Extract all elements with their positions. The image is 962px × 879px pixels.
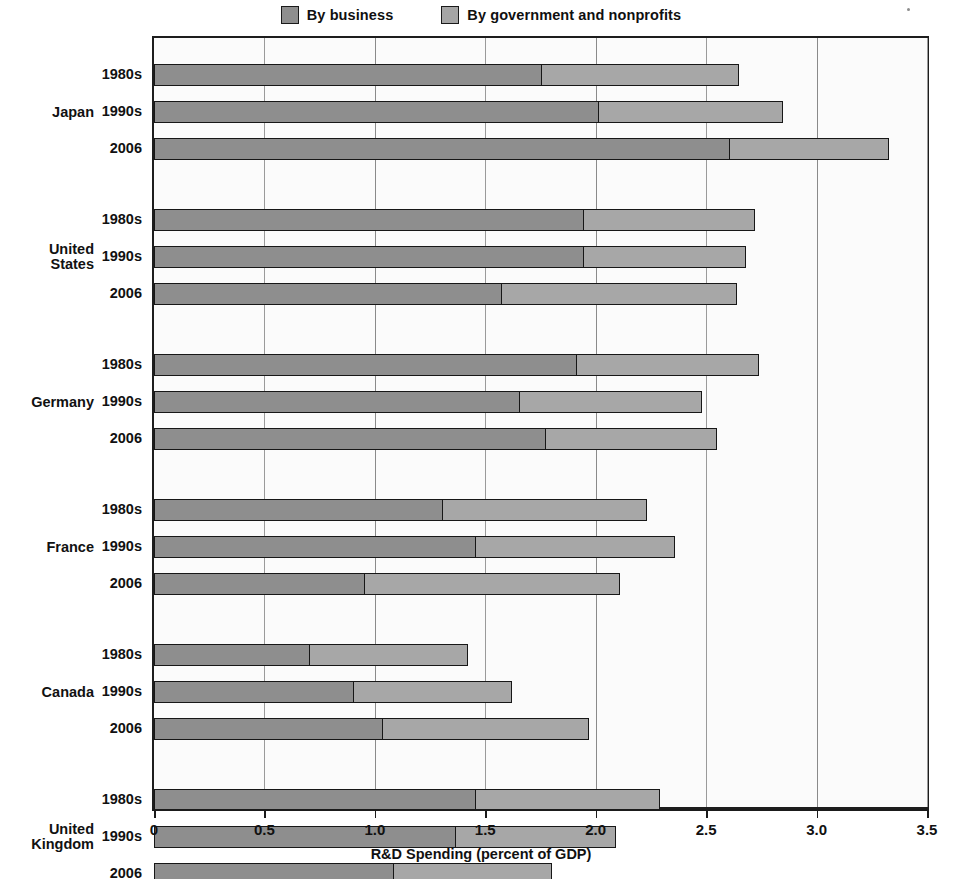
x-axis: 00.51.01.52.02.53.03.5 [152, 809, 929, 811]
legend-swatch-government-icon [441, 6, 459, 24]
x-tick-label: 3.5 [917, 821, 938, 838]
category-axis-labels: 1980s1990s2006Japan1980s1990s2006UnitedS… [0, 36, 152, 809]
bar-segment-government [382, 718, 589, 740]
legend-label-government: By government and nonprofits [467, 7, 681, 23]
period-label: 2006 [110, 576, 142, 591]
period-label: 2006 [110, 286, 142, 301]
bar-row [154, 209, 755, 231]
bar-row [154, 391, 702, 413]
bar-segment-government [353, 681, 512, 703]
bar-segment-government [583, 246, 746, 268]
bar-segment-business [154, 789, 476, 811]
x-tick [596, 809, 598, 818]
x-tick-label: 2.0 [585, 821, 606, 838]
x-tick [485, 809, 487, 818]
x-tick [817, 809, 819, 818]
bar-row [154, 246, 746, 268]
chart-legend: By business By government and nonprofits [0, 2, 962, 28]
bar-segment-government [475, 789, 660, 811]
bar-segment-business [154, 826, 457, 848]
x-tick [154, 809, 156, 818]
period-label: 1990s [102, 249, 142, 264]
period-label: 2006 [110, 721, 142, 736]
bar-row [154, 718, 589, 740]
bar-segment-government [364, 573, 620, 595]
bar-row [154, 499, 647, 521]
bar-segment-business [154, 499, 443, 521]
bar-segment-business [154, 283, 503, 305]
bar-segment-government [545, 428, 717, 450]
bar-segment-business [154, 681, 355, 703]
bar-row [154, 283, 737, 305]
country-label: UnitedStates [49, 242, 94, 272]
bar-row [154, 138, 889, 160]
country-label: Germany [31, 395, 94, 410]
legend-label-business: By business [307, 7, 394, 23]
bar-segment-government [475, 536, 675, 558]
bar-segment-government [541, 64, 739, 86]
country-label: Canada [42, 685, 94, 700]
x-tick [927, 809, 929, 818]
x-tick-label: 1.0 [364, 821, 385, 838]
bar-segment-government [583, 209, 755, 231]
bar-row [154, 573, 620, 595]
period-label: 1980s [102, 357, 142, 372]
period-label: 1980s [102, 212, 142, 227]
bar-segment-business [154, 536, 476, 558]
bar-segment-government [309, 644, 468, 666]
bar-segment-business [154, 428, 547, 450]
chart-canvas: By business By government and nonprofits… [0, 0, 962, 879]
period-label: 1980s [102, 67, 142, 82]
bar-segment-business [154, 246, 585, 268]
bar-segment-government [501, 283, 737, 305]
bar-row [154, 644, 468, 666]
x-axis-title: R&D Spending (percent of GDP) [0, 846, 962, 862]
period-label: 1980s [102, 792, 142, 807]
bar-segment-business [154, 209, 585, 231]
period-label: 1990s [102, 684, 142, 699]
page-artifact-dot [907, 8, 910, 11]
period-label: 2006 [110, 866, 142, 879]
period-label: 1980s [102, 502, 142, 517]
legend-item-business: By business [281, 6, 394, 24]
period-label: 1990s [102, 394, 142, 409]
bar-segment-government [393, 863, 552, 879]
period-label: 1990s [102, 104, 142, 119]
bar-segment-business [154, 644, 311, 666]
bar-segment-government [729, 138, 890, 160]
bar-row [154, 536, 675, 558]
x-tick-label: 3.0 [806, 821, 827, 838]
legend-item-government: By government and nonprofits [441, 6, 681, 24]
bar-segment-business [154, 718, 384, 740]
x-tick [706, 809, 708, 818]
bar-segment-business [154, 391, 521, 413]
x-tick [264, 809, 266, 818]
bar-row [154, 428, 717, 450]
bar-row [154, 863, 552, 879]
period-label: 1990s [102, 539, 142, 554]
gridline-3.5 [927, 38, 928, 807]
bar-row [154, 354, 759, 376]
period-label: 2006 [110, 431, 142, 446]
bar-row [154, 789, 660, 811]
bar-segment-business [154, 138, 730, 160]
period-label: 1980s [102, 647, 142, 662]
bar-segment-business [154, 573, 366, 595]
period-label: 1990s [102, 829, 142, 844]
bar-segment-government [576, 354, 759, 376]
bar-segment-government [598, 101, 783, 123]
period-label: 2006 [110, 141, 142, 156]
bar-row [154, 64, 739, 86]
x-tick-label: 0.5 [254, 821, 275, 838]
bar-row [154, 101, 783, 123]
bar-segment-government [442, 499, 647, 521]
legend-swatch-business-icon [281, 6, 299, 24]
x-tick-label: 0 [150, 821, 158, 838]
plot-area [152, 36, 929, 809]
bar-segment-government [519, 391, 702, 413]
bar-segment-business [154, 64, 543, 86]
bar-segment-business [154, 863, 395, 879]
country-label: Japan [52, 105, 94, 120]
x-tick-label: 1.5 [475, 821, 496, 838]
country-label: France [46, 540, 94, 555]
